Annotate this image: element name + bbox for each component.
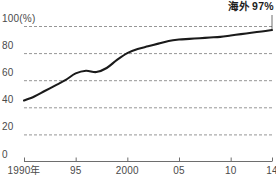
series-end-annotation: 海外 97%	[228, 1, 274, 12]
x-tick-label-2000: 2000	[116, 166, 139, 176]
x-tick-label-2010: 10	[225, 166, 237, 176]
x-tick-label-2005: 05	[173, 166, 185, 176]
y-tick-label-60: 60	[2, 68, 14, 78]
x-axis-ticks	[25, 158, 273, 162]
y-tick-label-0: 0	[2, 150, 8, 160]
line-chart: 020406080100(%) 1990年952000051014 海外 97%	[0, 0, 276, 182]
gridlines	[24, 27, 272, 135]
y-tick-label-20: 20	[2, 122, 14, 132]
y-tick-label-80: 80	[2, 41, 14, 51]
x-tick-label-2014: 14	[266, 166, 276, 176]
chart-canvas	[0, 0, 276, 182]
x-tick-label-1990: 1990年	[7, 166, 40, 176]
series-line-overseas	[24, 30, 272, 100]
y-tick-label-100: 100(%)	[2, 14, 35, 24]
x-tick-label-1995: 95	[70, 166, 82, 176]
y-tick-label-40: 40	[2, 95, 14, 105]
